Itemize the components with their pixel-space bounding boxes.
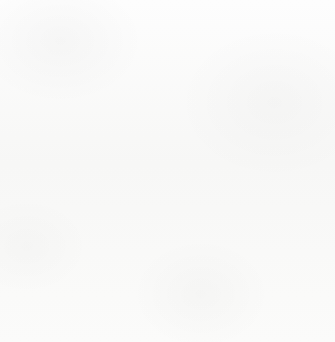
x-axis-label-1989: 1989 [161,310,184,321]
y-axis-title: Thousands [23,80,34,131]
bar-1991 [238,157,276,299]
x-axis-tick [236,300,237,307]
x-axis-line [60,299,322,300]
y-axis-tick: 2 [60,24,68,25]
y-axis-tick-label: 2 [49,19,55,30]
y-axis-tick: 0.5 [60,230,68,231]
bar-1988 [112,78,150,299]
y-axis-tick: 1.5 [60,93,68,94]
bar-chart: 00.511.52 198719881989199019911992 Thous… [0,0,335,342]
bar-1992 [280,226,318,299]
x-axis-tick [278,300,279,307]
x-axis-label-1992: 1992 [287,310,310,321]
x-axis-label-1990: 1990 [203,310,226,321]
y-axis-tick-label: 1 [49,156,55,167]
bar-1987 [70,89,108,299]
bar-1990 [196,133,234,299]
x-axis-label-1988: 1988 [119,310,142,321]
x-axis-tick [320,300,321,307]
x-axis-tick [194,300,195,307]
x-axis-tick [68,300,69,307]
x-axis-tick [152,300,153,307]
x-axis-label-1991: 1991 [245,310,268,321]
y-axis-tick-label: 0 [49,294,55,305]
x-axis-tick [110,300,111,307]
y-axis-tick-label: 1.5 [40,88,55,99]
y-axis-tick: 1 [60,162,68,163]
y-axis-tick: 0 [60,299,68,300]
x-axis-label-1987: 1987 [77,310,100,321]
bar-1989 [154,113,192,299]
y-axis-tick-label: 0.5 [40,225,55,236]
